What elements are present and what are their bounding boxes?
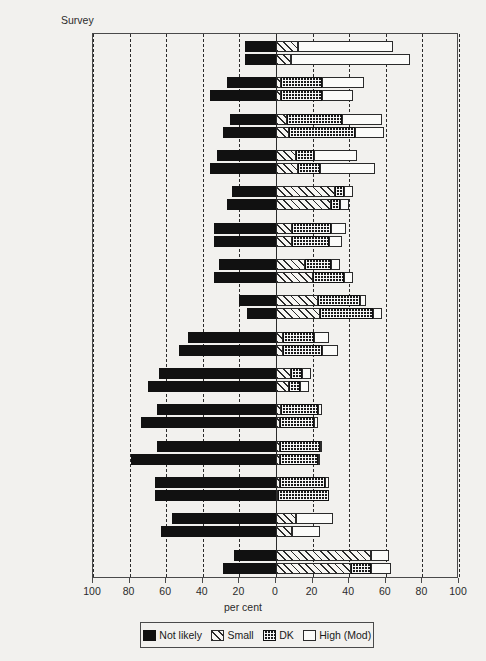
x-tick-label: 80 (401, 585, 441, 597)
segment-high (320, 163, 375, 174)
x-tick-label: 60 (365, 585, 405, 597)
segment-dk (281, 404, 318, 415)
segment-small (276, 186, 335, 197)
segment-not-likely (227, 199, 276, 210)
segment-high (298, 41, 393, 52)
segment-small (276, 150, 296, 161)
segment-small (276, 308, 320, 319)
chart-legend: Not likelySmallDKHigh (Mod) (140, 622, 374, 648)
segment-not-likely (245, 41, 276, 52)
segment-dk (283, 332, 314, 343)
segment-dk (278, 490, 329, 501)
segment-small (276, 345, 283, 356)
x-tick-mark (458, 578, 459, 583)
bar-row (93, 186, 459, 197)
legend-label: Small (227, 629, 253, 641)
segment-small (276, 272, 313, 283)
bar-row (93, 563, 459, 574)
bar-row (93, 127, 459, 138)
segment-dk (281, 90, 321, 101)
segment-not-likely (141, 417, 276, 428)
segment-small (276, 259, 305, 270)
segment-dk (296, 150, 314, 161)
bar-row (93, 163, 459, 174)
segment-dk (281, 77, 321, 88)
x-tick-mark (129, 578, 130, 583)
legend-label: Not likely (159, 629, 202, 641)
y-axis-title: Survey (61, 14, 94, 26)
x-tick-mark (312, 578, 313, 583)
bar-row (93, 513, 459, 524)
segment-high (371, 550, 389, 561)
bar-row (93, 404, 459, 415)
x-tick-mark (165, 578, 166, 583)
segment-small (276, 114, 287, 125)
segment-dk (313, 272, 344, 283)
segment-high (329, 236, 342, 247)
segment-high (331, 223, 346, 234)
bar-row (93, 199, 459, 210)
segment-dk (289, 127, 355, 138)
segment-not-likely (148, 381, 276, 392)
legend-label: High (Mod) (319, 629, 371, 641)
segment-small (276, 368, 291, 379)
x-axis-title: per cent (0, 601, 486, 613)
x-tick-label: 80 (109, 585, 149, 597)
segment-high (291, 54, 410, 65)
segment-small (276, 54, 291, 65)
segment-not-likely (159, 368, 276, 379)
segment-not-likely (239, 295, 276, 306)
chart-canvas: Survey CAR M- FCôte d'Ivoire M- FGuinea … (0, 0, 486, 661)
segment-high (296, 513, 333, 524)
segment-high (322, 77, 364, 88)
segment-not-likely (155, 490, 276, 501)
segment-not-likely (157, 404, 276, 415)
segment-dk (298, 163, 320, 174)
bar-row (93, 90, 459, 101)
segment-high (371, 563, 391, 574)
segment-high (302, 368, 311, 379)
segment-not-likely (247, 308, 276, 319)
segment-not-likely (232, 186, 276, 197)
segment-small (276, 295, 318, 306)
legend-item-small: Small (211, 629, 254, 641)
segment-not-likely (155, 477, 276, 488)
segment-not-likely (210, 163, 276, 174)
x-tick-mark (275, 578, 276, 583)
segment-small (276, 550, 371, 561)
segment-dk (291, 368, 302, 379)
gridline-100 (459, 34, 460, 577)
segment-not-likely (234, 550, 276, 561)
segment-not-likely (230, 114, 276, 125)
segment-dk (335, 186, 344, 197)
segment-small (276, 236, 292, 247)
segment-high (322, 345, 338, 356)
bar-row (93, 441, 459, 452)
segment-not-likely (172, 513, 276, 524)
bar-row (93, 526, 459, 537)
segment-not-likely (131, 454, 276, 465)
bar-row (93, 272, 459, 283)
bar-row (93, 295, 459, 306)
bar-row (93, 114, 459, 125)
segment-high (314, 332, 329, 343)
segment-high (342, 114, 382, 125)
x-tick-label: 40 (182, 585, 222, 597)
segment-high (314, 417, 318, 428)
bar-row (93, 41, 459, 52)
x-tick-mark (202, 578, 203, 583)
segment-high (360, 295, 365, 306)
segment-high (322, 90, 353, 101)
bar-row (93, 236, 459, 247)
segment-not-likely (188, 332, 276, 343)
x-tick-label: 40 (328, 585, 368, 597)
segment-high (320, 441, 322, 452)
segment-high (344, 186, 353, 197)
segment-small (276, 127, 289, 138)
legend-label: DK (279, 629, 294, 641)
segment-dk (280, 441, 320, 452)
bar-row (93, 550, 459, 561)
x-tick-label: 20 (218, 585, 258, 597)
x-tick-label: 100 (438, 585, 478, 597)
segment-small (276, 563, 351, 574)
